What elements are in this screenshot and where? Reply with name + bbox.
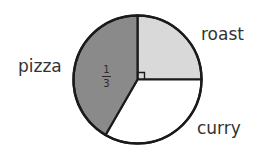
fraction-denominator: 3 [100, 78, 113, 89]
fraction-numerator: 1 [100, 64, 113, 75]
pie-chart: 1 3 pizza roast curry [0, 0, 259, 155]
label-curry: curry [197, 120, 241, 137]
fraction-bar [102, 76, 111, 77]
label-roast: roast [201, 26, 244, 43]
pizza-fraction-annotation: 1 3 [100, 64, 113, 89]
label-pizza: pizza [18, 58, 62, 75]
